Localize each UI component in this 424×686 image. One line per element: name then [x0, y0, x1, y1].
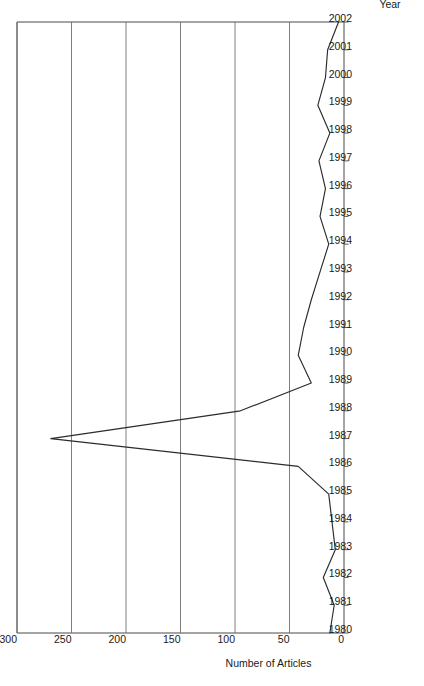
x-tick-label: 2000 [329, 68, 353, 80]
line-chart-figure: 1980198119821983198419851986198719881989… [0, 0, 424, 686]
x-tick-label: 1990 [329, 345, 353, 357]
y-axis-tick-labels: 050100150200250300 [0, 633, 344, 645]
figure-rotator: 1980198119821983198419851986198719881989… [0, 0, 424, 686]
y-tick-label: 200 [108, 633, 126, 645]
y-tick-label: 300 [0, 633, 17, 645]
series-line-number-of-articles [51, 22, 339, 633]
x-tick-label: 1985 [329, 484, 353, 496]
data-series-group [51, 22, 339, 633]
x-tick-label: 1989 [329, 373, 353, 385]
y-tick-label: 100 [217, 633, 235, 645]
y-axis-title: Number of Articles [226, 657, 312, 669]
x-tick-label: 1996 [329, 179, 353, 191]
x-tick-label: 1981 [329, 595, 353, 607]
x-tick-label: 1998 [329, 123, 353, 135]
x-tick-label: 2001 [329, 40, 353, 52]
x-tick-label: 1997 [329, 151, 353, 163]
x-tick-label: 1999 [329, 95, 353, 107]
x-tick-label: 1988 [329, 401, 353, 413]
chart-canvas: 1980198119821983198419851986198719881989… [0, 0, 424, 686]
y-tick-label: 150 [163, 633, 181, 645]
x-tick-label: 1984 [329, 512, 353, 524]
y-tick-label: 0 [338, 633, 344, 645]
x-axis-tick-labels: 1980198119821983198419851986198719881989… [329, 12, 353, 635]
y-tick-label: 50 [278, 633, 290, 645]
gridlines [17, 22, 290, 633]
x-tick-label: 1993 [329, 262, 353, 274]
x-tick-label: 1982 [329, 567, 353, 579]
x-tick-label: 1994 [329, 234, 353, 246]
y-tick-label: 250 [54, 633, 72, 645]
x-tick-label: 2002 [329, 12, 353, 24]
x-tick-label: 1987 [329, 429, 353, 441]
x-tick-label: 1995 [329, 206, 353, 218]
x-tick-label: 1983 [329, 540, 353, 552]
x-tick-label: 1986 [329, 456, 353, 468]
x-tick-label: 1991 [329, 318, 353, 330]
x-axis-title: Year [379, 0, 401, 10]
x-tick-label: 1992 [329, 290, 353, 302]
